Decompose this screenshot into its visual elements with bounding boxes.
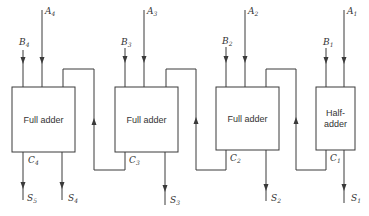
label-a3: A3 — [146, 6, 158, 17]
a3-arrow-icon — [142, 56, 147, 63]
label-a2: A2 — [247, 6, 259, 17]
s2-arrow-icon — [264, 184, 269, 191]
b3-arrow-icon — [123, 56, 128, 63]
label-s3: S3 — [170, 195, 180, 206]
label-b4: B4 — [18, 37, 30, 48]
label-s4: S4 — [68, 193, 78, 204]
s4-arrow-icon — [60, 182, 65, 189]
label-s1: S1 — [351, 193, 361, 204]
half-adder-1-label-line1: Half- — [326, 108, 345, 118]
label-a4: A4 — [44, 6, 56, 17]
full-adder-2-label: Full adder — [227, 114, 267, 124]
label-a1: A1 — [346, 6, 357, 17]
b4-arrow-icon — [21, 57, 26, 64]
b2-arrow-icon — [224, 56, 229, 63]
s3-arrow-icon — [163, 185, 168, 192]
a2-arrow-icon — [243, 56, 248, 63]
s1-arrow-icon — [342, 184, 347, 191]
carry-c3-arrow-icon — [92, 118, 97, 125]
b1-arrow-icon — [324, 57, 329, 64]
label-c1: C1 — [330, 153, 341, 164]
label-c3: C3 — [129, 155, 140, 166]
a4-arrow-icon — [40, 57, 45, 64]
label-c4: C4 — [28, 155, 39, 166]
ripple-carry-adder-diagram: Full adder Full adder Full adder — [0, 0, 369, 216]
s5-arrow-icon — [21, 182, 26, 189]
label-b3: B3 — [120, 37, 132, 48]
label-s5: S5 — [27, 193, 37, 204]
a1-arrow-icon — [342, 57, 347, 64]
full-adder-3-label: Full adder — [126, 115, 166, 125]
carry-c1-arrow-icon — [294, 117, 299, 124]
label-b2: B2 — [221, 36, 233, 47]
full-adder-4-label: Full adder — [23, 115, 63, 125]
label-c2: C2 — [230, 153, 241, 164]
half-adder-1-label-line2: adder — [324, 119, 347, 129]
half-adder-1: Half- adder — [316, 10, 355, 203]
carry-c2-arrow-icon — [194, 117, 199, 124]
label-b1: B1 — [322, 37, 333, 48]
label-s2: S2 — [271, 193, 281, 204]
